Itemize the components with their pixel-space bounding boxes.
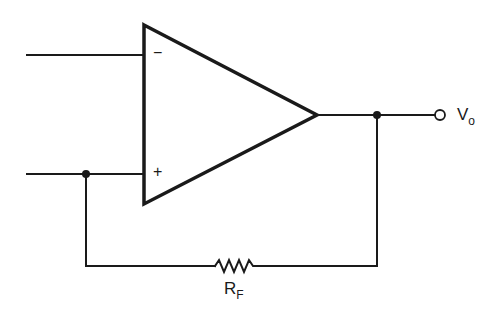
junction-dot-noninverting <box>82 170 90 178</box>
resistor-label-sub: F <box>236 288 243 302</box>
output-voltage-label-main: V <box>457 105 468 124</box>
resistor-label: RF <box>224 280 244 299</box>
circuit-drawing <box>0 0 500 314</box>
junction-dot-output <box>373 111 381 119</box>
output-voltage-label: Vo <box>457 106 475 125</box>
output-terminal-icon <box>435 110 445 120</box>
resistor-label-main: R <box>224 279 236 298</box>
resistor-rf-icon <box>215 260 255 272</box>
noninverting-input-symbol: + <box>153 164 162 180</box>
output-voltage-label-sub: o <box>468 114 475 128</box>
opamp-triangle <box>144 25 317 204</box>
inverting-input-symbol: − <box>153 45 162 61</box>
opamp-circuit-diagram: − + Vo RF <box>0 0 500 314</box>
